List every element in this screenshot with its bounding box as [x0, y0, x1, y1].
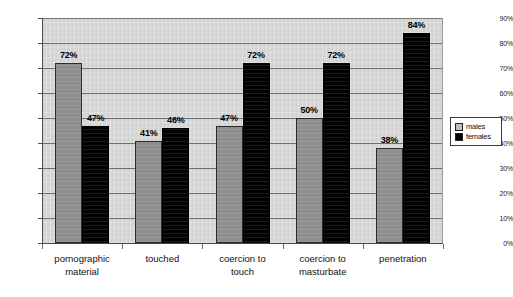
bar-texture — [244, 64, 269, 242]
y-axis-tick-mark — [38, 68, 42, 69]
x-axis-tick-mark — [42, 244, 43, 249]
x-axis-tick-mark — [443, 244, 444, 249]
y-axis-tick-mark — [38, 118, 42, 119]
bar-males-3 — [296, 118, 323, 243]
bar-females-0 — [82, 126, 109, 244]
x-axis-tick-mark — [283, 244, 284, 249]
bar-texture — [404, 34, 429, 242]
y-axis-tick-label: 10% — [477, 215, 513, 222]
y-axis-tick-mark — [38, 218, 42, 219]
data-label-males-3: 50% — [300, 105, 317, 115]
x-axis-category-label: penetration — [355, 252, 451, 265]
x-axis-tick-mark — [122, 244, 123, 249]
y-axis-tick-mark — [38, 93, 42, 94]
plot-right-border — [442, 18, 443, 244]
bar-texture — [136, 142, 161, 243]
data-label-males-1: 41% — [140, 128, 157, 138]
bar-texture — [56, 64, 81, 242]
plot-top-border — [42, 18, 443, 19]
x-axis-tick-mark — [363, 244, 364, 249]
bar-females-2 — [243, 63, 270, 243]
y-axis-tick-label: 90% — [477, 15, 513, 22]
bar-texture — [163, 129, 188, 242]
data-label-females-4: 84% — [408, 20, 425, 30]
legend-swatch-males — [455, 123, 463, 131]
bar-females-4 — [403, 33, 430, 243]
y-axis-tick-label: 70% — [477, 65, 513, 72]
y-axis-line — [42, 18, 43, 244]
x-axis-tick-mark — [202, 244, 203, 249]
bar-males-1 — [135, 141, 162, 244]
data-label-males-4: 38% — [381, 135, 398, 145]
y-axis-tick-mark — [38, 193, 42, 194]
legend-item-males: males — [455, 122, 498, 131]
y-axis-tick-label: 0% — [477, 240, 513, 247]
y-axis-tick-mark — [38, 143, 42, 144]
legend-label: males — [466, 122, 485, 131]
bar-texture — [83, 127, 108, 243]
legend-item-females: females — [455, 132, 498, 141]
bar-chart: 0%10%20%30%40%50%60%70%80%90% pornograph… — [0, 0, 513, 297]
legend-label: females — [466, 132, 491, 141]
y-axis-tick-label: 30% — [477, 165, 513, 172]
data-label-males-2: 47% — [220, 113, 237, 123]
bar-texture — [217, 127, 242, 243]
data-label-females-2: 72% — [247, 50, 264, 60]
y-axis-tick-label: 60% — [477, 90, 513, 97]
y-axis-tick-label: 80% — [477, 40, 513, 47]
data-label-females-3: 72% — [327, 50, 344, 60]
y-axis-tick-mark — [38, 18, 42, 19]
bar-texture — [297, 119, 322, 242]
bar-females-1 — [162, 128, 189, 243]
data-label-males-0: 72% — [60, 50, 77, 60]
x-axis-line — [42, 243, 443, 244]
gridline — [42, 43, 443, 44]
bar-texture — [324, 64, 349, 242]
y-axis-tick-mark — [38, 43, 42, 44]
bar-males-0 — [55, 63, 82, 243]
bar-females-3 — [323, 63, 350, 243]
data-label-females-0: 47% — [87, 113, 104, 123]
bar-males-4 — [376, 148, 403, 243]
y-axis-tick-mark — [38, 168, 42, 169]
y-axis-tick-label: 20% — [477, 190, 513, 197]
bar-texture — [377, 149, 402, 242]
data-label-females-1: 46% — [167, 115, 184, 125]
bar-males-2 — [216, 126, 243, 244]
chart-legend: malesfemales — [450, 117, 502, 146]
legend-swatch-females — [455, 133, 463, 141]
